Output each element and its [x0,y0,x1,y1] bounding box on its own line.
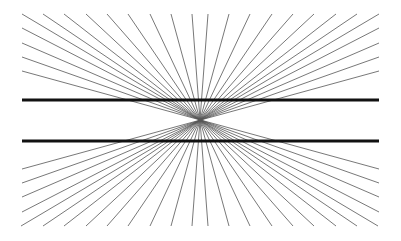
hering-illusion-figure [0,0,401,241]
radiating-rays [21,14,379,226]
